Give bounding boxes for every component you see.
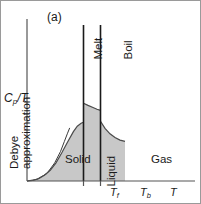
debye-label-line2: approximation — [21, 97, 33, 169]
tick-tf-sub: f — [117, 191, 119, 200]
phase-label-solid: Solid — [65, 154, 91, 166]
x-tick-label-tb: Tb — [140, 187, 151, 199]
x-axis-label: T — [170, 187, 177, 198]
x-tick-label-tf: Tf — [110, 187, 119, 199]
figure-panel-a: (a) Cp/T Debye approximation Melt Boil S… — [0, 0, 201, 204]
boil-label: Boil — [123, 40, 135, 59]
tick-tb-base: T — [140, 186, 147, 198]
tick-tb-sub: b — [147, 191, 151, 200]
debye-label-line1: Debye — [8, 136, 20, 169]
tick-tf-base: T — [110, 186, 117, 198]
melt-label: Melt — [93, 38, 105, 60]
panel-label: (a) — [47, 11, 62, 23]
phase-label-gas: Gas — [151, 154, 172, 166]
phase-label-liquid: Liquid — [106, 156, 118, 187]
debye-approximation-label: Debye approximation — [9, 97, 32, 169]
